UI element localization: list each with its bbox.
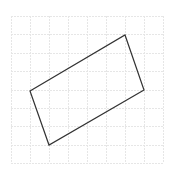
diagram-canvas [0,0,174,176]
grid [11,16,164,164]
